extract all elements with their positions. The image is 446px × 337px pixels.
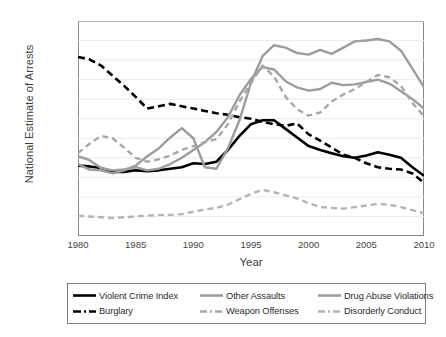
- legend-label: Burglary: [99, 306, 133, 316]
- chart-figure: National Estimate of Arrests 275,000250,…: [0, 0, 446, 337]
- series-line-disorderly-conduct: [78, 190, 424, 218]
- legend-label: Disorderly Conduct: [344, 306, 421, 316]
- x-tick-label: 2010: [404, 239, 444, 250]
- plot-svg: [78, 21, 424, 236]
- legend-label: Other Assaults: [226, 291, 285, 301]
- legend-item-weapon-offenses[interactable]: Weapon Offenses: [200, 306, 318, 317]
- x-tick-label: 1985: [116, 239, 156, 250]
- legend-item-other-assaults[interactable]: Other Assaults: [200, 290, 318, 301]
- legend-item-drug-abuse-violations[interactable]: Drug Abuse Violations: [318, 290, 433, 301]
- x-tick-label: 1990: [173, 239, 213, 250]
- chart-legend: Violent Crime IndexOther AssaultsDrug Ab…: [67, 283, 426, 324]
- series-line-burglary: [78, 57, 424, 183]
- x-tick-label: 1995: [231, 239, 271, 250]
- x-tick-label: 1980: [58, 239, 98, 250]
- legend-swatch-icon: [318, 306, 341, 317]
- legend-swatch-icon: [200, 290, 223, 301]
- legend-swatch-icon: [73, 306, 96, 317]
- x-tick-label: 2005: [346, 239, 386, 250]
- plot-area: [78, 21, 424, 236]
- legend-swatch-icon: [200, 306, 223, 317]
- x-tick-label: 2000: [289, 239, 329, 250]
- legend-label: Drug Abuse Violations: [344, 291, 433, 301]
- legend-swatch-icon: [318, 290, 341, 301]
- legend-label: Violent Crime Index: [99, 291, 178, 301]
- x-axis-title: Year: [78, 256, 424, 268]
- legend-item-disorderly-conduct[interactable]: Disorderly Conduct: [318, 306, 433, 317]
- legend-item-violent-crime-index[interactable]: Violent Crime Index: [73, 290, 200, 301]
- legend-swatch-icon: [73, 290, 96, 301]
- legend-label: Weapon Offenses: [226, 306, 299, 316]
- y-axis-title: National Estimate of Arrests: [23, 29, 35, 199]
- legend-item-burglary[interactable]: Burglary: [73, 306, 200, 317]
